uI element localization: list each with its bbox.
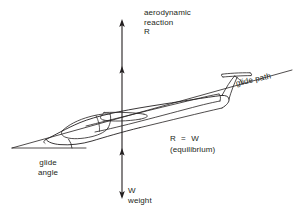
aero-line-1: aerodynamic <box>144 8 191 17</box>
equilibrium-note-label: (equilibrium) <box>170 145 215 155</box>
glider-nose <box>44 140 46 144</box>
glide-angle-line-2: angle <box>38 168 58 177</box>
glide-angle-label: glideangle <box>38 158 58 177</box>
glide-angle-line-1: glide <box>39 158 56 167</box>
glider-fuselage <box>46 95 229 144</box>
glide-angle-arc <box>69 139 72 148</box>
reaction-symbol-label: R <box>144 27 150 37</box>
weight-symbol-label: W <box>128 186 136 196</box>
equilibrium-equation-label: R = W <box>170 134 199 144</box>
weight-word-label: weight <box>128 196 152 206</box>
aerodynamic-reaction-label: aerodynamicreaction <box>144 8 191 27</box>
glider-equilibrium-diagram: aerodynamicreaction R W weight R = W (eq… <box>0 0 297 213</box>
aero-line-2: reaction <box>144 18 173 27</box>
